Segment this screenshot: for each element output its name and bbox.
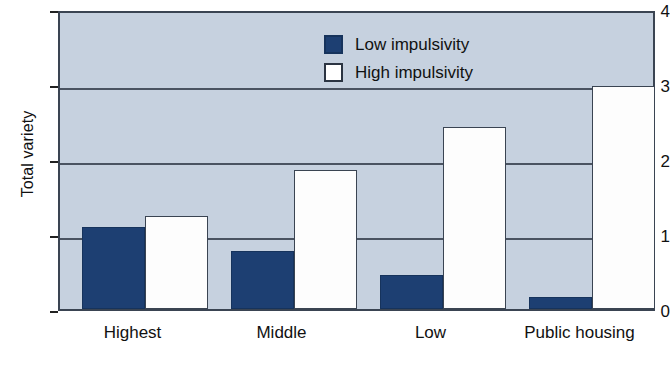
y-tick-mark-0 [50,311,58,313]
y-tick-mark-3 [50,86,58,88]
bar-public-housing-high-impulsivity [592,86,655,309]
legend: Low impulsivity High impulsivity [324,31,473,87]
y-tick-mark-2 [50,161,58,163]
x-axis-label-middle: Middle [207,323,356,343]
x-axis-label-low: Low [356,323,505,343]
legend-swatch-icon-low-impulsivity [324,35,343,54]
bar-low-low-impulsivity [380,275,443,309]
legend-label-low-impulsivity: Low impulsivity [355,35,469,54]
y-axis-title: Total variety [19,64,37,244]
gridline-2 [60,163,653,165]
y-tick-mark-1 [50,236,58,238]
y-tick-mark-4 [50,11,58,13]
plot-area: Low impulsivity High impulsivity [58,11,655,311]
legend-item-high-impulsivity: High impulsivity [324,59,473,85]
bar-highest-low-impulsivity [82,227,145,310]
bar-public-housing-low-impulsivity [529,297,592,309]
bar-middle-high-impulsivity [294,170,357,310]
bar-highest-high-impulsivity [145,216,208,309]
legend-swatch-icon-high-impulsivity [324,63,343,82]
bar-low-high-impulsivity [443,127,506,309]
legend-item-low-impulsivity: Low impulsivity [324,31,473,57]
bar-middle-low-impulsivity [231,251,294,309]
legend-label-high-impulsivity: High impulsivity [355,63,473,82]
gridline-3 [60,88,653,90]
x-axis-label-public-housing: Public housing [505,323,654,343]
x-axis-label-highest: Highest [58,323,207,343]
bar-chart: Total variety 4 3 2 1 0 Low impulsivity [0,0,670,369]
